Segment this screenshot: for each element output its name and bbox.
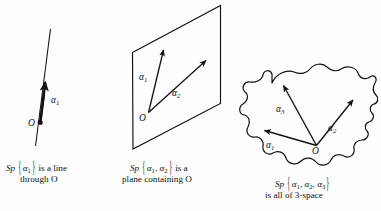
span-figure: O α1 Sp {α1} is a line through O O α1 α2… [0, 0, 381, 211]
caption-alpha1-sub: 1 [297, 183, 300, 190]
vector-label-alpha2-plane: α2 [172, 88, 180, 98]
vector-label-alpha1-plane: α1 [139, 72, 147, 82]
space-blob-outline [240, 64, 378, 165]
caption-sp-prefix: Sp [275, 179, 284, 189]
caption-alpha2-sub: 2 [164, 167, 167, 174]
vector-alpha1 [149, 50, 164, 113]
caption-span-line: Sp {α1} is a line through O [6, 162, 67, 186]
caption-suffix: is a [175, 163, 188, 173]
panel-space-graphic [240, 64, 378, 165]
brace-close-icon: } [32, 160, 35, 177]
origin-label-plane: O [139, 113, 146, 123]
caption-comma-1: , [155, 163, 157, 173]
vector-label-alpha3-space: α3 [276, 104, 284, 114]
caption-alpha2-sub: 2 [309, 183, 312, 190]
origin-label-line: O [28, 118, 35, 128]
vector-alpha3 [284, 86, 317, 146]
brace-close-icon: } [327, 176, 330, 193]
caption-alpha1-sub: 1 [28, 167, 31, 174]
caption-alpha3-sub: 3 [322, 183, 325, 190]
caption-span-space: Sp {α1, α2, α3} is all of 3-space [275, 178, 331, 202]
caption-span-plane: Sp {α1, α2} is a plane containing O [130, 162, 192, 186]
vector-label-alpha1-space: α1 [266, 140, 274, 150]
vector-label-alpha1-line: α1 [51, 95, 59, 105]
caption-alpha1: α [292, 179, 297, 189]
line-through-origin [36, 29, 51, 146]
vector-alpha2 [149, 61, 207, 113]
vector-label-alpha2-space: α2 [328, 123, 336, 133]
caption-alpha1: α [23, 163, 28, 173]
caption-comma-1: , [300, 179, 302, 189]
origin-label-space: O [312, 146, 319, 156]
origin-dot [38, 120, 43, 125]
brace-close-icon: } [169, 160, 172, 177]
caption-suffix: is a line [38, 163, 67, 173]
caption-plane-containing-origin: plane containing O [122, 174, 192, 185]
caption-through-origin: through O [20, 174, 67, 185]
caption-alpha1-sub: 1 [152, 167, 155, 174]
caption-sp-prefix: Sp [130, 163, 139, 173]
caption-alpha1: α [147, 163, 152, 173]
caption-sp-prefix: Sp [6, 163, 15, 173]
panel-line-graphic [36, 29, 51, 146]
caption-all-of-3-space: is all of 3-space [265, 190, 331, 201]
